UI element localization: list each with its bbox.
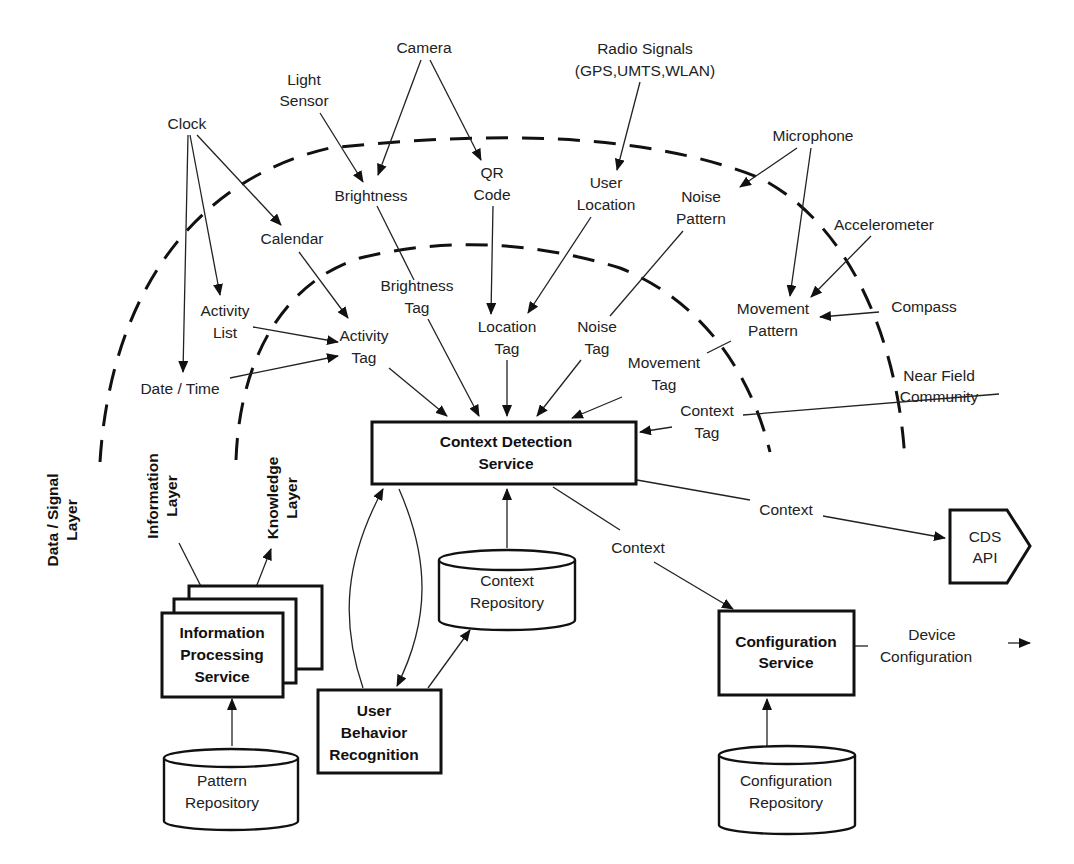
svg-text:User: User	[590, 174, 623, 191]
svg-text:Near Field: Near Field	[903, 367, 975, 384]
source-compass: Compass	[891, 298, 957, 315]
svg-text:Information: Information	[144, 453, 161, 538]
svg-text:Tag: Tag	[352, 349, 377, 366]
svg-text:Brightness: Brightness	[334, 187, 407, 204]
context-detection-service-box[interactable]: Context Detection Service	[372, 422, 636, 484]
source-accelerometer: Accelerometer	[834, 216, 934, 233]
svg-text:Radio Signals: Radio Signals	[597, 40, 693, 57]
source-light-sensor: Light Sensor	[279, 71, 328, 109]
source-near-field-community: Near Field Community	[900, 367, 979, 405]
svg-text:Pattern: Pattern	[748, 322, 798, 339]
svg-text:Behavior: Behavior	[341, 724, 407, 741]
svg-text:Information: Information	[179, 624, 264, 641]
info-calendar: Calendar	[261, 230, 324, 247]
source-radio-signals: Radio Signals (GPS,UMTS,WLAN)	[575, 40, 715, 79]
info-date-time: Date / Time	[140, 380, 219, 397]
svg-text:Context Detection: Context Detection	[440, 433, 573, 450]
svg-text:Brightness: Brightness	[380, 277, 453, 294]
source-camera: Camera	[396, 39, 452, 56]
svg-text:Sensor: Sensor	[279, 92, 328, 109]
tag-activity: Activity Tag	[339, 327, 388, 366]
svg-text:Service: Service	[478, 455, 534, 472]
svg-text:Configuration: Configuration	[880, 648, 972, 665]
svg-text:Light: Light	[287, 71, 321, 88]
svg-text:Movement: Movement	[737, 300, 810, 317]
layer-label-knowledge: Knowledge Layer	[264, 456, 300, 539]
svg-text:Noise: Noise	[681, 188, 721, 205]
info-activity-list: Activity List	[200, 302, 249, 341]
layer-label-data-signal: Data / Signal Layer	[44, 473, 80, 566]
configuration-service-box[interactable]: Configuration Service	[719, 611, 854, 695]
info-brightness: Brightness	[334, 187, 407, 204]
cds-architecture-diagram: Data / Signal Layer Information Layer Kn…	[0, 0, 1074, 864]
svg-text:Layer: Layer	[283, 477, 300, 518]
tag-location: Location Tag	[478, 318, 537, 357]
svg-text:CDS: CDS	[969, 528, 1002, 545]
svg-text:Service: Service	[194, 668, 250, 685]
svg-text:Calendar: Calendar	[261, 230, 324, 247]
svg-text:Device: Device	[908, 626, 955, 643]
svg-text:Community: Community	[900, 388, 979, 405]
svg-text:Tag: Tag	[405, 299, 430, 316]
pattern-repository[interactable]: Pattern Repository	[164, 749, 298, 830]
source-microphone: Microphone	[773, 127, 854, 144]
svg-text:Microphone: Microphone	[773, 127, 854, 144]
svg-text:Movement: Movement	[628, 354, 701, 371]
context-repository[interactable]: Context Repository	[439, 550, 575, 630]
info-movement-pattern: Movement Pattern	[737, 300, 810, 339]
svg-text:Processing: Processing	[180, 646, 264, 663]
source-clock: Clock	[168, 115, 207, 132]
svg-text:Repository: Repository	[470, 594, 544, 611]
tag-movement: Movement Tag	[628, 354, 701, 393]
information-processing-service-stack[interactable]: Information Processing Service	[162, 586, 322, 697]
svg-text:User: User	[357, 702, 391, 719]
svg-text:Date / Time: Date / Time	[140, 380, 219, 397]
svg-text:Noise: Noise	[577, 318, 617, 335]
tag-noise: Noise Tag	[577, 318, 617, 357]
svg-text:API: API	[973, 549, 998, 566]
svg-text:Tag: Tag	[695, 424, 720, 441]
svg-text:Tag: Tag	[495, 340, 520, 357]
info-noise-pattern: Noise Pattern	[676, 188, 726, 227]
context-label-config: Context	[611, 539, 665, 556]
info-qr-code: QR Code	[473, 164, 510, 203]
cds-api-connector[interactable]: CDS API	[950, 510, 1030, 583]
svg-text:Activity: Activity	[200, 302, 249, 319]
svg-text:Camera: Camera	[396, 39, 452, 56]
svg-text:Compass: Compass	[891, 298, 957, 315]
context-label-api: Context	[759, 501, 813, 518]
device-configuration-output: Device Configuration	[880, 626, 972, 665]
tag-context: Context Tag	[680, 402, 734, 441]
svg-text:Clock: Clock	[168, 115, 207, 132]
svg-text:Configuration: Configuration	[735, 633, 837, 650]
layer-label-information: Information Layer	[144, 453, 180, 538]
svg-text:(GPS,UMTS,WLAN): (GPS,UMTS,WLAN)	[575, 62, 715, 79]
svg-text:Configuration: Configuration	[740, 772, 832, 789]
svg-text:Repository: Repository	[749, 794, 823, 811]
svg-text:Layer: Layer	[163, 475, 180, 516]
svg-text:Activity: Activity	[339, 327, 388, 344]
svg-text:Pattern: Pattern	[197, 772, 247, 789]
svg-text:Data / Signal: Data / Signal	[44, 473, 61, 566]
user-behavior-recognition-box[interactable]: User Behavior Recognition	[318, 690, 441, 773]
svg-text:List: List	[213, 324, 238, 341]
svg-text:Context: Context	[480, 572, 534, 589]
svg-text:Location: Location	[478, 318, 537, 335]
svg-text:Repository: Repository	[185, 794, 259, 811]
svg-text:Accelerometer: Accelerometer	[834, 216, 934, 233]
svg-text:Tag: Tag	[652, 376, 677, 393]
svg-text:QR: QR	[480, 164, 503, 181]
svg-text:Knowledge: Knowledge	[264, 456, 281, 539]
svg-text:Context: Context	[680, 402, 734, 419]
configuration-repository[interactable]: Configuration Repository	[719, 746, 855, 834]
svg-text:Layer: Layer	[63, 499, 80, 540]
info-user-location: User Location	[577, 174, 636, 213]
svg-text:Service: Service	[758, 654, 814, 671]
svg-text:Code: Code	[473, 186, 510, 203]
svg-text:Location: Location	[577, 196, 636, 213]
svg-text:Tag: Tag	[585, 340, 610, 357]
svg-text:Recognition: Recognition	[329, 746, 419, 763]
tag-brightness: Brightness Tag	[380, 277, 453, 316]
svg-text:Pattern: Pattern	[676, 210, 726, 227]
